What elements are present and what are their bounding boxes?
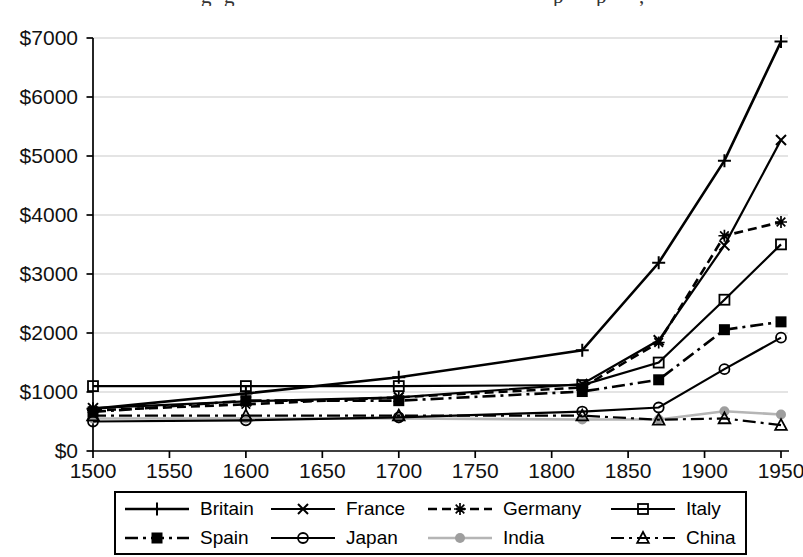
legend-label: Germany bbox=[503, 498, 581, 520]
series-line bbox=[93, 222, 781, 410]
x-marker-icon bbox=[776, 135, 786, 145]
x-tick-label: 1700 bbox=[375, 459, 422, 482]
legend-label: France bbox=[346, 498, 405, 520]
legend-label: Japan bbox=[346, 527, 398, 549]
legend-label: China bbox=[686, 527, 736, 549]
legend-label: Italy bbox=[686, 498, 721, 520]
legend-item-italy: Italy bbox=[610, 498, 739, 520]
filled-square-marker-icon bbox=[776, 316, 787, 327]
legend-label: India bbox=[503, 527, 544, 549]
x-tick-label: 1900 bbox=[681, 459, 728, 482]
legend-swatch-italy bbox=[610, 500, 676, 518]
filled-square-marker-icon bbox=[152, 532, 163, 543]
legend-label: Britain bbox=[200, 498, 254, 520]
x-tick-label: 1600 bbox=[223, 459, 270, 482]
x-axis: 1500155016001650170017501800185019001950 bbox=[70, 451, 803, 482]
series-italy bbox=[88, 239, 786, 391]
plus-marker-icon bbox=[151, 502, 164, 515]
legend-swatch-india bbox=[427, 529, 493, 547]
y-tick-label: $1000 bbox=[20, 380, 78, 403]
x-tick-label: 1950 bbox=[758, 459, 803, 482]
chart-legend: BritainFranceGermanyItalySpainJapanIndia… bbox=[114, 491, 747, 555]
y-tick-label: $2000 bbox=[20, 321, 78, 344]
filled-square-marker-icon bbox=[719, 324, 730, 335]
x-marker-icon bbox=[719, 240, 729, 250]
x-tick-label: 1650 bbox=[299, 459, 346, 482]
gdp-per-capita-figure: g g p p , $0$1000$2000$3000$4000$5000$60… bbox=[0, 0, 803, 557]
x-tick-label: 1750 bbox=[452, 459, 499, 482]
line-chart-plot: $0$1000$2000$3000$4000$5000$6000$7000150… bbox=[0, 0, 803, 486]
y-tick-label: $5000 bbox=[20, 144, 78, 167]
y-axis: $0$1000$2000$3000$4000$5000$6000$7000 bbox=[20, 26, 93, 462]
legend-label: Spain bbox=[200, 527, 249, 549]
x-tick-label: 1550 bbox=[146, 459, 193, 482]
asterisk-marker-icon bbox=[775, 216, 787, 228]
legend-item-spain: Spain bbox=[124, 527, 270, 549]
legend-swatch-britain bbox=[124, 500, 190, 518]
legend-item-japan: Japan bbox=[270, 527, 427, 549]
legend-item-india: India bbox=[427, 527, 610, 549]
y-tick-label: $3000 bbox=[20, 262, 78, 285]
y-tick-label: $4000 bbox=[20, 203, 78, 226]
legend-swatch-china bbox=[610, 529, 676, 547]
legend-swatch-germany bbox=[427, 500, 493, 518]
asterisk-marker-icon bbox=[454, 503, 466, 515]
series-line bbox=[93, 338, 781, 422]
series-britain bbox=[87, 35, 788, 415]
x-tick-label: 1800 bbox=[528, 459, 575, 482]
legend-swatch-france bbox=[270, 500, 336, 518]
plus-marker-icon bbox=[775, 35, 788, 48]
legend-swatch-spain bbox=[124, 529, 190, 547]
series-japan bbox=[88, 333, 786, 427]
filled-square-marker-icon bbox=[653, 374, 664, 385]
y-tick-label: $7000 bbox=[20, 26, 78, 49]
legend-item-france: France bbox=[270, 498, 427, 520]
legend-item-china: China bbox=[610, 527, 739, 549]
legend-item-britain: Britain bbox=[124, 498, 270, 520]
filled-circle-marker-icon bbox=[455, 533, 465, 543]
legend-swatch-japan bbox=[270, 529, 336, 547]
axes bbox=[93, 38, 789, 451]
series-spain bbox=[88, 316, 787, 417]
x-tick-label: 1500 bbox=[70, 459, 117, 482]
x-tick-label: 1850 bbox=[605, 459, 652, 482]
legend-item-germany: Germany bbox=[427, 498, 610, 520]
y-tick-label: $6000 bbox=[20, 85, 78, 108]
